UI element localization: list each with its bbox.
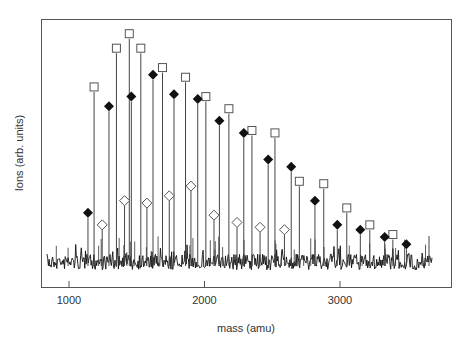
x-axis-label: mass (amu) — [217, 322, 275, 334]
x-tick-label: 2000 — [192, 294, 216, 306]
plot-frame — [42, 20, 452, 288]
x-tick-label: 3000 — [328, 294, 352, 306]
mass-spectrum-chart: 100020003000 mass (amu) Ions (arb. units… — [0, 0, 467, 345]
y-axis-label: Ions (arb. units) — [13, 115, 25, 191]
x-tick-label: 1000 — [57, 294, 81, 306]
